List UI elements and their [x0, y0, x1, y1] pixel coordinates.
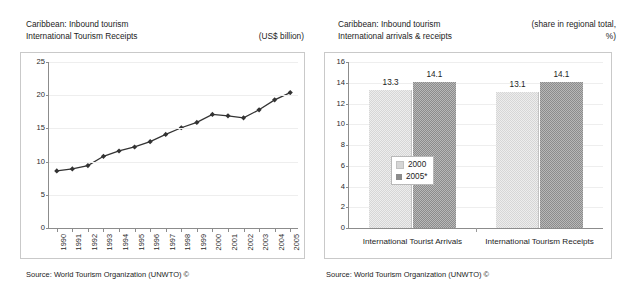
- line-chart-gridline: [49, 128, 298, 129]
- bar-chart-ytick-mark: [346, 228, 349, 229]
- line-chart-gridline: [49, 62, 298, 63]
- bar-chart-category-divider: [476, 228, 477, 232]
- legend-swatch-icon-2005: [396, 174, 402, 180]
- bar-chart-ytick-label: 0: [341, 224, 345, 232]
- bar-chart-ytick-mark: [346, 104, 349, 105]
- right-chart-header-line2: International arrivals & receipts %): [338, 31, 616, 42]
- line-chart-data-marker: [194, 120, 199, 125]
- line-chart-gridline: [49, 195, 298, 196]
- line-chart-data-marker: [225, 113, 230, 118]
- line-chart-ytick-label: 5: [41, 191, 45, 199]
- right-header-title: Caribbean: Inbound tourism: [338, 19, 440, 30]
- line-chart-ytick-mark: [46, 228, 49, 229]
- line-chart-data-marker: [54, 168, 59, 173]
- bar-chart-category-label: International Tourism Receipts: [485, 237, 594, 246]
- line-chart-xtick-mark: [135, 228, 136, 232]
- line-chart-xtick-label: 2002: [247, 234, 255, 250]
- line-chart-xtick-label: 2003: [262, 234, 270, 250]
- line-chart-xtick-mark: [119, 228, 120, 232]
- line-chart-xtick-label: 2001: [231, 234, 239, 250]
- legend-label-2005: 2005*: [406, 172, 427, 181]
- line-chart-data-marker: [241, 115, 246, 120]
- line-chart-xtick-label: 1991: [75, 234, 83, 250]
- panel-arrivals-receipts-share: Caribbean: Inbound tourism (share in reg…: [312, 0, 624, 299]
- line-chart-ytick-label: 15: [37, 124, 45, 132]
- right-header-subtitle: International arrivals & receipts: [338, 31, 452, 42]
- bar-chart-bar: [540, 82, 584, 228]
- legend-label-2000: 2000: [408, 160, 426, 169]
- right-chart-source-note: Source: World Tourism Organization (UNWT…: [326, 270, 489, 279]
- left-chart-source-note: Source: World Tourism Organization (UNWT…: [26, 270, 189, 279]
- bar-chart-legend: 2000 2005*: [391, 156, 434, 185]
- line-chart-series-path: [57, 93, 290, 171]
- line-chart-xtick-mark: [212, 228, 213, 232]
- line-chart-xtick-label: 2004: [278, 234, 286, 250]
- bar-chart-category-label: International Tourist Arrivals: [363, 237, 462, 246]
- bar-chart-plot-area: 024681012141613.314.1International Touri…: [348, 62, 603, 229]
- bar-chart-bar: [496, 92, 540, 228]
- left-chart-header-line1: Caribbean: Inbound tourism: [26, 19, 304, 30]
- line-chart-xtick-mark: [103, 228, 104, 232]
- bar-chart-ytick-label: 8: [341, 141, 345, 149]
- line-chart-xtick-label: 1992: [91, 234, 99, 250]
- bar-chart-ytick-mark: [346, 62, 349, 63]
- bar-chart-ytick-mark: [346, 83, 349, 84]
- bar-chart-ytick-label: 14: [337, 79, 345, 87]
- panel-tourism-receipts: Caribbean: Inbound tourism International…: [0, 0, 312, 299]
- bar-chart-ytick-label: 6: [341, 162, 345, 170]
- line-chart-xtick-mark: [181, 228, 182, 232]
- line-series-svg: [49, 62, 298, 228]
- line-chart-xtick-label: 1999: [200, 234, 208, 250]
- line-chart-ytick-mark: [46, 62, 49, 63]
- bar-chart-ytick-mark: [346, 166, 349, 167]
- bar-chart-ytick-mark: [346, 124, 349, 125]
- line-chart-xtick-mark: [197, 228, 198, 232]
- bar-chart-value-label: 13.3: [383, 78, 399, 87]
- line-chart-xtick-mark: [57, 228, 58, 232]
- bar-chart-ytick-label: 12: [337, 100, 345, 108]
- line-chart-data-marker: [116, 148, 121, 153]
- bar-chart-value-label: 13.1: [510, 80, 526, 89]
- line-chart-xtick-label: 1995: [138, 234, 146, 250]
- legend-item-2005[interactable]: 2005*: [396, 172, 427, 181]
- bar-chart-ytick-label: 4: [341, 183, 345, 191]
- bar-chart-ytick-label: 10: [337, 120, 345, 128]
- figure-pair: Caribbean: Inbound tourism International…: [0, 0, 624, 299]
- line-chart-data-marker: [148, 139, 153, 144]
- legend-item-2000[interactable]: 2000: [396, 160, 427, 169]
- line-chart-ytick-mark: [46, 95, 49, 96]
- right-chart-header-line1: Caribbean: Inbound tourism (share in reg…: [338, 19, 616, 30]
- line-chart-xtick-mark: [259, 228, 260, 232]
- left-header-subtitle: International Tourism Receipts: [26, 31, 137, 42]
- line-chart-xtick-mark: [88, 228, 89, 232]
- right-chart-frame: 024681012141613.314.1International Touri…: [324, 52, 612, 259]
- bar-chart-ytick-mark: [346, 187, 349, 188]
- line-chart-ytick-mark: [46, 195, 49, 196]
- bar-chart-ytick-label: 2: [341, 203, 345, 211]
- left-chart-frame: 0510152025199019911992199319941995199619…: [20, 52, 305, 259]
- line-chart-ytick-label: 25: [37, 58, 45, 66]
- line-chart-xtick-label: 1994: [122, 234, 130, 250]
- left-header-title: Caribbean: Inbound tourism: [26, 19, 128, 29]
- line-chart-ytick-mark: [46, 128, 49, 129]
- line-chart-data-marker: [210, 112, 215, 117]
- line-chart-xtick-label: 1996: [153, 234, 161, 250]
- line-chart-xtick-label: 2000: [215, 234, 223, 250]
- line-chart-data-marker: [163, 132, 168, 137]
- line-chart-ytick-label: 0: [41, 224, 45, 232]
- right-header-unit-line1: (share in regional total,: [522, 19, 616, 30]
- right-header-unit-line2: %): [596, 31, 616, 42]
- line-chart-data-marker: [70, 166, 75, 171]
- left-header-unit: (US$ billion): [249, 31, 304, 42]
- line-chart-xtick-mark: [72, 228, 73, 232]
- line-chart-xtick-mark: [228, 228, 229, 232]
- bar-chart-value-label: 14.1: [553, 70, 569, 79]
- line-chart-xtick-label: 1998: [184, 234, 192, 250]
- line-chart-ytick-label: 20: [37, 91, 45, 99]
- line-chart-xtick-label: 1997: [169, 234, 177, 250]
- legend-swatch-icon-2000: [396, 161, 404, 169]
- line-chart-ytick-mark: [46, 162, 49, 163]
- bar-chart-gridline: [349, 62, 603, 63]
- line-chart-xtick-label: 2005: [293, 234, 301, 250]
- bar-chart-value-label: 14.1: [426, 70, 442, 79]
